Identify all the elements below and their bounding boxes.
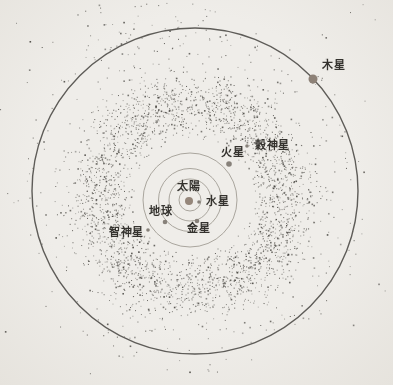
mercury-label: 水星 <box>206 196 229 208</box>
venus-label: 金星 <box>187 223 210 235</box>
pallas-dot <box>146 228 150 232</box>
mars-label: 火星 <box>221 147 244 159</box>
earth-label: 地球 <box>149 206 172 218</box>
mercury-dot <box>197 200 201 204</box>
pallas-label: 智神星 <box>109 227 144 239</box>
earth-dot <box>163 220 168 225</box>
ceres-dot <box>245 144 249 148</box>
sun-dot <box>185 197 193 205</box>
solar-system-asteroid-belt-figure: 太陽 水星 金星 地球 火星 穀神星 智神星 木星 <box>0 0 393 385</box>
jupiter-dot <box>309 75 318 84</box>
sun-label: 太陽 <box>177 181 200 193</box>
jupiter-label: 木星 <box>322 60 345 72</box>
ceres-label: 穀神星 <box>255 140 290 152</box>
mars-dot <box>226 161 232 167</box>
